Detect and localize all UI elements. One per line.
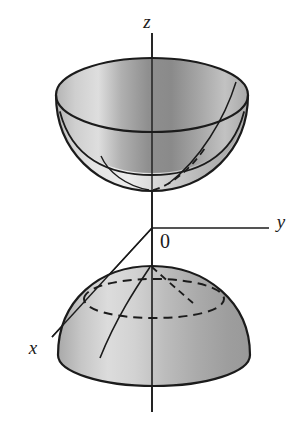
lower-sheet-group bbox=[58, 266, 250, 386]
z-axis-label: z bbox=[142, 11, 151, 32]
x-axis-label: x bbox=[28, 337, 38, 358]
lower-sheet-body bbox=[58, 266, 250, 386]
figure-canvas: z y x 0 bbox=[0, 0, 303, 426]
origin-label: 0 bbox=[160, 230, 170, 252]
y-axis-label: y bbox=[275, 211, 286, 232]
hyperboloid-figure: z y x 0 bbox=[0, 0, 303, 426]
